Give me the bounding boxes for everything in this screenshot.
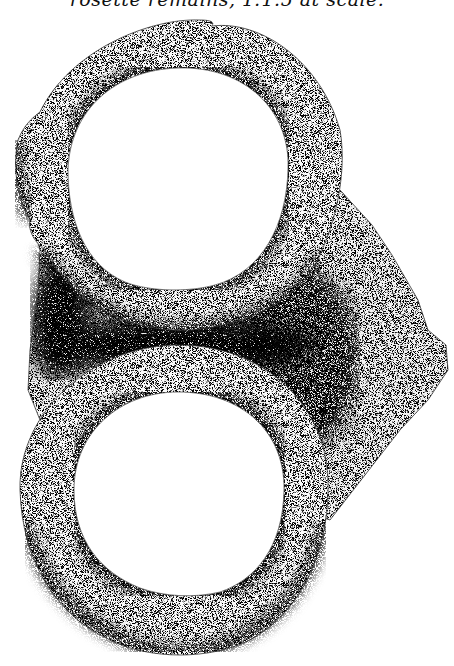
lower-hole-outline (74, 392, 284, 596)
artifact-illustration (0, 0, 454, 666)
upper-hole-outline (68, 68, 288, 290)
lower-ring (20, 345, 328, 655)
upper-ring (16, 20, 343, 330)
